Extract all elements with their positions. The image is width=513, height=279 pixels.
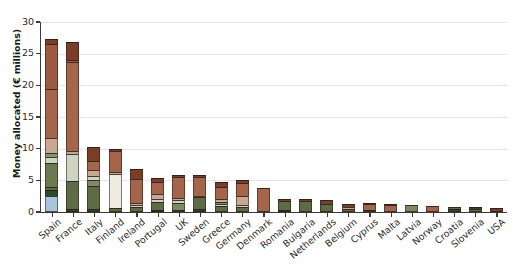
bar-belgium[interactable]: [342, 204, 355, 212]
bar-segment: [172, 203, 185, 210]
y-axis-tick-label: 20: [6, 79, 34, 90]
bar-segment: [66, 62, 79, 151]
y-axis-tick: [36, 148, 40, 149]
x-axis-label-usa: USA: [486, 216, 508, 237]
bar-segment: [299, 201, 312, 212]
bar-segment: [66, 42, 79, 60]
x-axis-tick: [475, 213, 476, 217]
bar-segment: [109, 151, 122, 173]
x-axis-tick: [242, 213, 243, 217]
x-axis-tick: [158, 213, 159, 217]
bar-segment: [193, 177, 206, 195]
bar-germany[interactable]: [236, 180, 249, 212]
y-axis-tick-label: 5: [6, 174, 34, 185]
bar-france[interactable]: [66, 42, 79, 212]
bar-segment: [257, 188, 270, 212]
bar-segment: [45, 89, 58, 138]
bar-segment: [87, 161, 100, 171]
x-axis-tick: [369, 213, 370, 217]
gridline: [41, 22, 507, 23]
y-axis-tick-label: 25: [6, 47, 34, 58]
bar-segment: [66, 181, 79, 209]
bar-greece[interactable]: [215, 182, 228, 212]
bar-segment: [45, 196, 58, 212]
bar-segment: [193, 197, 206, 209]
x-axis-tick: [306, 213, 307, 217]
bar-segment: [130, 179, 143, 202]
x-axis-tick: [348, 213, 349, 217]
x-axis-tick: [412, 213, 413, 217]
bar-segment: [384, 205, 397, 212]
x-axis-tick: [73, 213, 74, 217]
stacked-bar-chart: Money allocated (€ millions) 05101520253…: [0, 0, 513, 279]
bar-malta[interactable]: [384, 204, 397, 212]
bar-segment: [151, 202, 164, 210]
x-axis-tick: [221, 213, 222, 217]
bar-sweden[interactable]: [193, 175, 206, 212]
bar-finland[interactable]: [109, 149, 122, 212]
bar-uk[interactable]: [172, 175, 185, 212]
bar-segment: [130, 169, 143, 179]
bar-cyprus[interactable]: [363, 203, 376, 213]
bar-segment: [151, 182, 164, 194]
x-axis-tick: [52, 213, 53, 217]
bar-segment: [278, 201, 291, 210]
x-axis-tick: [200, 213, 201, 217]
y-axis-tick: [36, 211, 40, 212]
bar-segment: [236, 196, 249, 206]
bar-segment: [172, 177, 185, 197]
x-axis-tick: [454, 213, 455, 217]
y-axis-tick-label: 15: [6, 111, 34, 122]
bar-bulgaria[interactable]: [299, 199, 312, 212]
y-axis-tick-label: 0: [6, 206, 34, 217]
x-axis-tick: [94, 213, 95, 217]
y-axis-tick: [36, 85, 40, 86]
bar-segment: [45, 163, 58, 186]
y-axis-tick: [36, 180, 40, 181]
bar-segment: [405, 205, 418, 212]
bar-spain[interactable]: [45, 39, 58, 212]
bar-romania[interactable]: [278, 199, 291, 212]
x-axis-tick: [136, 213, 137, 217]
y-axis-tick: [36, 21, 40, 22]
y-axis-line: [40, 22, 41, 213]
bar-segment: [45, 138, 58, 153]
gridline: [41, 54, 507, 55]
bar-segment: [215, 187, 228, 199]
bar-latvia[interactable]: [405, 205, 418, 212]
bar-segment: [45, 44, 58, 89]
bar-segment: [236, 183, 249, 196]
x-axis-tick: [327, 213, 328, 217]
bar-denmark[interactable]: [257, 188, 270, 212]
y-axis-tick-labels: 051015202530: [0, 0, 34, 279]
bar-portugal[interactable]: [151, 178, 164, 212]
bar-italy[interactable]: [87, 147, 100, 212]
x-axis-tick-label: USA: [486, 216, 508, 237]
gridline: [41, 85, 507, 86]
bar-segment: [109, 174, 122, 208]
bar-segment: [87, 147, 100, 161]
x-axis-tick: [391, 213, 392, 217]
gridline: [41, 117, 507, 118]
plot-area: [41, 22, 507, 212]
y-axis-tick-label: 30: [6, 16, 34, 27]
y-axis-tick: [36, 116, 40, 117]
bar-segment: [320, 204, 333, 212]
x-axis-tick: [433, 213, 434, 217]
y-axis-tick: [36, 53, 40, 54]
x-axis-tick: [179, 213, 180, 217]
bar-ireland[interactable]: [130, 169, 143, 212]
y-axis-tick-label: 10: [6, 142, 34, 153]
x-axis-line: [41, 212, 507, 213]
x-axis-tick: [115, 213, 116, 217]
bar-netherlands[interactable]: [320, 200, 333, 212]
x-axis-tick: [285, 213, 286, 217]
bar-segment: [66, 154, 79, 181]
bar-segment: [87, 186, 100, 209]
